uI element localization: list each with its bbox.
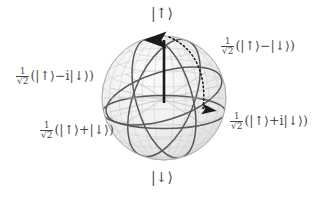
fraction-one-over-root-two: 1 √2 — [16, 67, 29, 86]
north-pole-label: |↑⟩ — [151, 6, 173, 20]
fraction-one-over-root-two: 1 √2 — [221, 37, 234, 56]
south-pole-label: |↓⟩ — [151, 170, 173, 184]
state-label-plus: 1 √2 (|↑⟩+|↓⟩) — [40, 121, 114, 140]
state-label-plus-i: 1 √2 (|↑⟩+i|↓⟩) — [230, 112, 308, 131]
state-expression: (|↑⟩+|↓⟩) — [54, 124, 113, 137]
state-expression: (|↑⟩−i|↓⟩) — [30, 70, 93, 83]
state-label-minus: 1 √2 (|↑⟩−|↓⟩) — [221, 37, 295, 56]
state-label-minus-i: 1 √2 (|↑⟩−i|↓⟩) — [16, 67, 94, 86]
bloch-sphere-figure: |↑⟩ |↓⟩ 1 √2 (|↑⟩−|↓⟩) 1 √2 (|↑⟩−i|↓⟩) 1… — [0, 0, 328, 198]
fraction-one-over-root-two: 1 √2 — [40, 121, 53, 140]
fraction-one-over-root-two: 1 √2 — [230, 112, 243, 131]
state-expression: (|↑⟩−|↓⟩) — [235, 40, 294, 53]
state-expression: (|↑⟩+i|↓⟩) — [244, 115, 307, 128]
